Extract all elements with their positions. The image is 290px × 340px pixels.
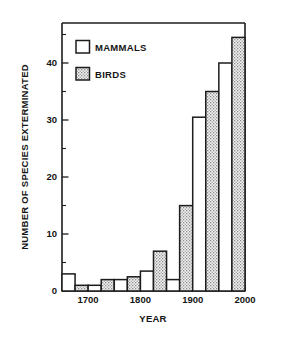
- legend-label-birds: BIRDS: [95, 69, 126, 80]
- bar-mammals-1950: [219, 63, 232, 291]
- bar-birds-1700: [101, 280, 114, 291]
- bar-mammals-1700: [88, 285, 101, 291]
- bar-birds-1800: [153, 251, 166, 291]
- legend-swatch-mammals: [76, 41, 90, 54]
- bar-birds-1650: [75, 285, 88, 291]
- legend-swatch-birds: [76, 68, 90, 81]
- bar-birds-1900: [206, 92, 219, 292]
- bar-mammals-1900: [193, 117, 206, 291]
- chart-figure: 0 10 20 30 40 1700 1800 1900 2000: [0, 0, 290, 340]
- y-axis-title: NUMBER OF SPECIES EXTERMINATED: [19, 64, 30, 250]
- y-tick-label-20: 20: [46, 171, 57, 182]
- x-tick-label-1800: 1800: [130, 294, 151, 305]
- y-tick-label-10: 10: [46, 228, 57, 239]
- species-exterminated-bar-chart: 0 10 20 30 40 1700 1800 1900 2000: [0, 0, 290, 340]
- bar-birds-1850: [180, 206, 193, 291]
- bar-mammals-1650: [62, 274, 75, 291]
- bar-mammals-1850: [167, 280, 180, 291]
- bar-birds-1750: [127, 277, 140, 291]
- legend-label-mammals: MAMMALS: [95, 42, 147, 53]
- y-tick-label-30: 30: [46, 114, 57, 125]
- x-axis-title: YEAR: [139, 313, 166, 324]
- x-tick-label-1700: 1700: [78, 294, 99, 305]
- bar-birds-1950: [232, 37, 245, 291]
- bar-mammals-1750: [114, 280, 127, 291]
- y-tick-label-40: 40: [46, 57, 57, 68]
- bar-mammals-1800: [140, 271, 153, 291]
- x-tick-label-2000: 2000: [234, 294, 255, 305]
- y-tick-label-0: 0: [52, 285, 57, 296]
- x-tick-label-1900: 1900: [182, 294, 203, 305]
